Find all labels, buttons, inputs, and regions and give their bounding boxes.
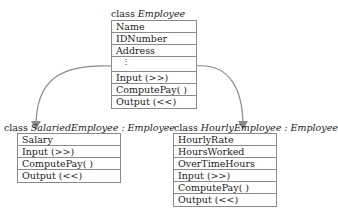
- member-row: Output (<<): [174, 194, 276, 206]
- arrow-to-salaried: [36, 66, 111, 126]
- member-row: Input (>>): [18, 146, 120, 158]
- base-class-title: class Employee: [111, 8, 185, 19]
- class-name: SalariedEmployee : Employee: [31, 122, 175, 133]
- hourly-class-box: HourlyRate HoursWorked OverTimeHours Inp…: [173, 133, 277, 207]
- class-name: HourlyEmployee : Employee: [201, 122, 338, 133]
- salaried-class-box: Salary Input (>>) ComputePay( ) Output (…: [17, 133, 121, 183]
- class-keyword: class: [174, 122, 198, 133]
- class-name: Employee: [138, 8, 185, 19]
- member-row: OverTimeHours: [174, 158, 276, 170]
- member-row: HoursWorked: [174, 146, 276, 158]
- member-row: Input (>>): [174, 170, 276, 182]
- member-row: Input (>>): [112, 72, 196, 84]
- member-row: ComputePay( ): [112, 84, 196, 96]
- base-class-box: Name IDNumber Address ⋮ Input (>>) Compu…: [111, 20, 197, 109]
- arrow-to-hourly: [196, 66, 243, 126]
- class-keyword: class: [111, 8, 135, 19]
- member-row: Output (<<): [18, 170, 120, 182]
- member-row: ComputePay( ): [174, 182, 276, 194]
- class-keyword: class: [4, 122, 28, 133]
- member-row: IDNumber: [112, 33, 196, 45]
- member-row: ComputePay( ): [18, 158, 120, 170]
- ellipsis-row: ⋮: [112, 57, 196, 72]
- hourly-class-title: class HourlyEmployee : Employee: [174, 122, 338, 133]
- member-row: Output (<<): [112, 96, 196, 108]
- member-row: Salary: [18, 134, 120, 146]
- salaried-class-title: class SalariedEmployee : Employee: [4, 122, 175, 133]
- member-row: Name: [112, 21, 196, 33]
- member-row: HourlyRate: [174, 134, 276, 146]
- member-row: Address: [112, 45, 196, 57]
